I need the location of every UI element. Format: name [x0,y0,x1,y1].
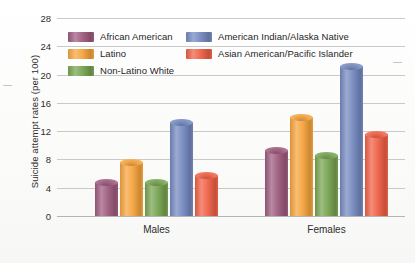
bar-top-cap [170,119,193,126]
bar-males-series-3 [170,122,193,216]
bar-top-cap [365,131,388,138]
x-tick-label-males: Males [143,224,170,235]
x-tick-label-females: Females [307,224,345,235]
chart-legend: African AmericanAmerican Indian/Alaska N… [68,28,398,79]
y-tick-label-20: 20 [40,69,51,80]
bar-body [290,117,313,216]
bar-females-series-3 [340,66,363,216]
legend-item-0[interactable]: African American [68,31,186,42]
bar-females-series-1 [290,117,313,216]
y-tick-label-0: 0 [46,211,51,222]
bar-females-series-2 [315,155,338,216]
bar-males-series-0 [95,182,118,216]
y-tick-label-4: 4 [46,182,51,193]
chart-container: Suicide attempt rates (per 100) — — 0481… [0,0,415,263]
bar-males-series-1 [120,162,143,216]
bar-males-series-2 [145,182,168,216]
y-tick-label-24: 24 [40,41,51,52]
bar-body [120,162,143,216]
bar-body [315,155,338,216]
bar-top-cap [95,179,118,186]
bar-females-series-4 [365,134,388,216]
legend-label: American Indian/Alaska Native [218,31,349,42]
y-axis-title: Suicide attempt rates (per 100) [29,27,40,217]
bar-body [265,150,288,216]
bar-body [95,182,118,216]
legend-swatch-icon [186,32,212,42]
legend-label: Asian American/Pacific Islander [218,48,353,59]
legend-swatch-icon [68,32,94,42]
legend-swatch-icon [68,66,94,76]
bar-body [170,122,193,216]
bar-body [195,175,218,216]
bar-body [340,66,363,216]
y-tick-label-12: 12 [40,126,51,137]
bar-top-cap [195,172,218,179]
bar-body [145,182,168,216]
bar-body [365,134,388,216]
legend-item-1[interactable]: Latino [68,48,186,59]
bar-males-series-4 [195,175,218,216]
legend-swatch-icon [68,49,94,59]
left-margin-dash: — [3,80,12,90]
bar-top-cap [290,114,313,121]
legend-item-2[interactable]: Non-Latino White [68,65,186,76]
legend-swatch-icon [186,49,212,59]
legend-label: Latino [100,48,126,59]
legend-label: Non-Latino White [100,65,174,76]
bar-females-series-0 [265,150,288,216]
bar-top-cap [145,179,168,186]
legend-item-4[interactable]: Asian American/Pacific Islander [186,48,398,59]
y-tick-label-16: 16 [40,97,51,108]
y-tick-label-8: 8 [46,154,51,165]
y-tick-label-28: 28 [40,13,51,24]
legend-item-3[interactable]: American Indian/Alaska Native [186,31,398,42]
legend-label: African American [100,31,173,42]
gridline-0: 0 [57,216,405,217]
